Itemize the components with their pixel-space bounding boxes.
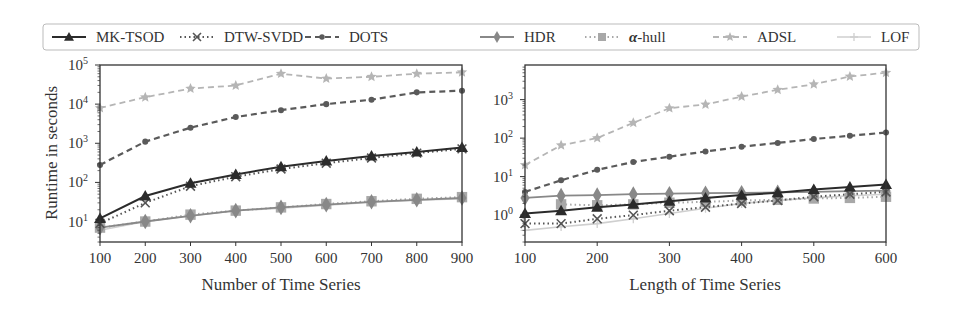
y-tick-label: 103 (68, 133, 88, 151)
x-tick-label: 300 (179, 250, 202, 266)
x-tick-label: 600 (315, 250, 338, 266)
series-line-adsl (100, 72, 462, 108)
x-tick-label: 900 (451, 250, 474, 266)
data-point-adsl (231, 80, 242, 90)
legend-label-adsl: ADSL (757, 29, 796, 45)
data-point-dots (142, 139, 148, 145)
x-tick-label: 100 (514, 250, 537, 266)
data-point-lof (593, 219, 602, 228)
data-point-dots (666, 154, 672, 160)
x-tick-label: 100 (89, 250, 112, 266)
data-point-dots (811, 136, 817, 142)
data-point-dots (414, 89, 420, 95)
data-point-dots (233, 114, 239, 120)
x-tick-label: 500 (803, 250, 826, 266)
x-tick-label: 400 (730, 250, 753, 266)
y-tick-label: 104 (68, 94, 88, 112)
data-point-dots (847, 133, 853, 139)
y-tick-label: 105 (68, 55, 88, 73)
runtime-figure: MK-TSODDTW-SVDDDOTSHDRα-hullADSLLOF 1002… (0, 0, 957, 309)
data-point-adsl (628, 117, 638, 127)
data-point-dots (775, 140, 781, 146)
x-tick-label: 400 (225, 250, 248, 266)
data-point-adsl (556, 140, 566, 150)
data-point-dots (323, 101, 329, 107)
series-line-dots (525, 133, 886, 192)
x-tick-label: 300 (658, 250, 681, 266)
series-adsl-left (95, 67, 467, 113)
y-tick-label: 101 (68, 212, 88, 230)
y-tick-label: 102 (493, 128, 513, 146)
y-axis-label-left: Runtime in seconds (42, 86, 61, 220)
data-point-dots (702, 148, 708, 154)
data-point-dots (739, 144, 745, 150)
legend: MK-TSODDTW-SVDDDOTSHDRα-hullADSLLOF (43, 24, 919, 50)
x-axis-label-left: Number of Time Series (201, 275, 360, 294)
data-point-adsl (185, 83, 195, 93)
x-tick-label: 500 (270, 250, 293, 266)
data-point-hdr (141, 214, 150, 230)
legend-label-lof: LOF (881, 29, 909, 45)
legend-label-alpha-hull: α-hull (629, 29, 666, 45)
y-tick-label: 103 (493, 90, 513, 108)
x-tick-label: 200 (586, 250, 609, 266)
data-point-dots (278, 107, 284, 113)
legend-label-dots: DOTS (349, 29, 388, 45)
data-point-adsl (809, 79, 819, 89)
data-point-dots (558, 177, 564, 183)
series-dtw-svdd-left (96, 144, 467, 227)
legend-marker-dots-icon (319, 34, 325, 40)
data-point-adsl (412, 68, 423, 78)
legend-label-mk-tsod: MK-TSOD (96, 29, 165, 45)
legend-label-dtw-svdd: DTW-SVDD (224, 29, 303, 45)
y-tick-label: 100 (493, 205, 513, 223)
data-point-adsl (321, 73, 332, 83)
data-point-dots (368, 97, 374, 103)
series-dots-left (97, 88, 465, 168)
data-point-hdr (276, 200, 285, 216)
data-point-adsl (366, 71, 376, 81)
chart-runtime-vs-length: 100200300400500600 100101102103 Length o… (493, 65, 897, 294)
data-point-adsl (140, 92, 151, 102)
data-point-adsl (773, 84, 783, 94)
data-point-adsl (700, 99, 710, 109)
data-point-adsl (736, 91, 746, 101)
x-tick-label: 800 (406, 250, 429, 266)
x-tick-label: 200 (134, 250, 157, 266)
data-point-adsl (276, 68, 286, 78)
series-hdr-left (95, 190, 466, 235)
x-axis-label-right: Length of Time Series (629, 275, 781, 294)
data-point-adsl (592, 133, 602, 143)
series-dots-right (522, 129, 889, 194)
y-tick-label: 102 (68, 172, 88, 190)
x-tick-label: 600 (875, 250, 898, 266)
data-point-adsl (664, 103, 674, 113)
x-tick-label: 700 (360, 250, 383, 266)
data-point-adsl (845, 71, 855, 81)
data-point-dots (630, 159, 636, 165)
legend-marker-alpha-hull-icon (598, 33, 606, 41)
chart-runtime-vs-number: 100200300400500600700800900 101102103104… (42, 55, 473, 294)
data-point-hdr (231, 203, 240, 219)
legend-label-hdr: HDR (524, 29, 556, 45)
y-tick-label: 101 (493, 167, 513, 185)
data-point-dots (187, 125, 193, 131)
data-point-dots (594, 167, 600, 173)
series-line-alpha-hull (561, 197, 886, 206)
